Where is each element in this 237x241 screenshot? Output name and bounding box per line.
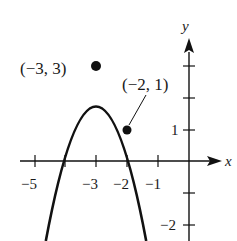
x-tick-label-m5: −5: [21, 176, 37, 192]
point-m2-1: [123, 126, 132, 135]
y-tick-label-m2: −2: [160, 217, 176, 233]
vertex-label: (−3, 3): [20, 59, 66, 78]
point-leader-line: [129, 95, 146, 125]
parabola-curve: [46, 107, 146, 241]
vertex-point: [91, 61, 101, 71]
parabola-graph: x y −5 −3 −2 −1 1 −2 (−3, 3) (−2, 1): [0, 0, 237, 241]
x-axis-label: x: [224, 153, 232, 169]
y-axis-arrow-icon: [184, 38, 194, 53]
x-tick-label-m3: −3: [82, 176, 98, 192]
y-tick-label-1: 1: [171, 122, 179, 138]
point-label: (−2, 1): [122, 75, 168, 94]
x-tick-label-m1: −1: [145, 176, 161, 192]
y-axis-label: y: [180, 18, 189, 34]
x-tick-label-m2: −2: [113, 176, 129, 192]
